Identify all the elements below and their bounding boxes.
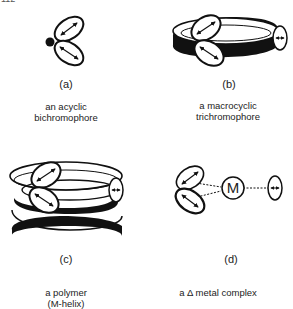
- panel-d-caption-line1: a Δ metal complex: [179, 287, 257, 298]
- panel-b-caption-line1: a macrocyclic: [199, 100, 257, 111]
- panel-a-bichromophore: [46, 12, 88, 71]
- panel-b-macrocycle: [173, 10, 287, 71]
- panel-b-label: (b): [222, 79, 235, 90]
- panel-a-caption-line2: bichromophore: [34, 112, 97, 123]
- metal-center-label: M: [227, 180, 240, 196]
- panel-c-label: (c): [60, 254, 73, 265]
- panel-a-caption-line1: an acyclic: [45, 101, 87, 112]
- panel-d-label: (d): [224, 254, 237, 265]
- chromophore-diagram: [0, 0, 293, 309]
- panel-c-caption-line1: a polymer: [45, 287, 87, 298]
- panel-a-label: (a): [59, 79, 72, 90]
- panel-c-helix: [10, 157, 123, 236]
- panel-c-caption-line2: (M-helix): [48, 298, 85, 309]
- panel-b-caption-line2: trichromophore: [196, 111, 260, 122]
